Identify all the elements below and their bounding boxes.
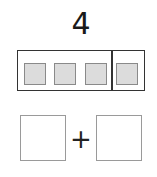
counter-cell-3: [85, 63, 107, 85]
frame-divider: [111, 50, 113, 91]
counter-cell-4: [116, 63, 138, 85]
target-number: 4: [66, 8, 96, 40]
plus-sign: +: [69, 124, 93, 154]
addend-box-right[interactable]: [96, 115, 142, 161]
counter-cell-2: [54, 63, 76, 85]
counter-cell-1: [24, 63, 46, 85]
addend-box-left[interactable]: [20, 115, 66, 161]
